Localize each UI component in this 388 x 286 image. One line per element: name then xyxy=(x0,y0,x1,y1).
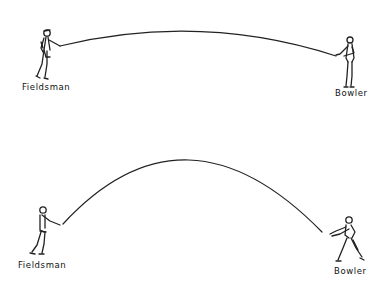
top-fieldsman-figure xyxy=(36,30,60,79)
bottom-fieldsman-label: Fieldsman xyxy=(18,260,66,270)
bottom-fieldsman-figure xyxy=(30,207,60,254)
diagram-drawing xyxy=(0,0,388,286)
throw-diagram: Fieldsman Bowler Fieldsman Bowler xyxy=(0,0,388,286)
top-bowler-figure xyxy=(336,37,354,87)
lofted-throw-trajectory xyxy=(63,160,322,232)
bottom-bowler-label: Bowler xyxy=(334,266,367,276)
flat-throw-trajectory xyxy=(60,31,336,56)
bottom-bowler-figure xyxy=(330,217,364,261)
top-fieldsman-label: Fieldsman xyxy=(22,82,70,92)
top-bowler-label: Bowler xyxy=(335,88,368,98)
